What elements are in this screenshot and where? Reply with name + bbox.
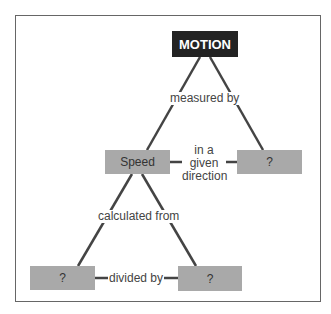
link-label-measured-by: measured by <box>168 92 241 105</box>
link-label-line-3: direction <box>182 170 226 183</box>
node-motion-label: MOTION <box>179 37 231 52</box>
node-distance-label: ? <box>59 271 66 285</box>
node-time-unknown: ? <box>178 266 242 291</box>
link-label-calculated-from: calculated from <box>96 210 181 223</box>
node-distance-unknown: ? <box>30 266 95 290</box>
node-velocity-label: ? <box>266 155 273 169</box>
node-speed-label: Speed <box>120 155 155 169</box>
node-speed: Speed <box>105 150 170 174</box>
link-label-divided-by: divided by <box>108 272 164 285</box>
node-velocity-unknown: ? <box>237 150 302 174</box>
link-label-in-a-given-direction: in a given direction <box>182 144 226 183</box>
node-motion: MOTION <box>172 31 238 57</box>
node-time-label: ? <box>207 272 214 286</box>
